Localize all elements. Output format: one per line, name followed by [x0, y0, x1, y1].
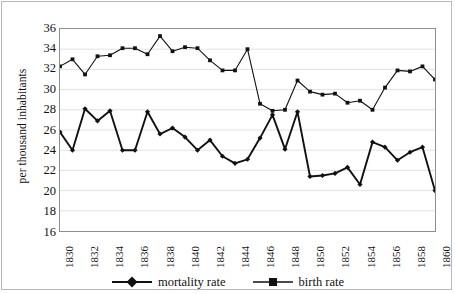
y-tick-34: 34 — [12, 42, 56, 55]
data-point — [183, 45, 187, 49]
data-point — [133, 46, 137, 50]
data-point — [433, 78, 435, 82]
data-point — [383, 86, 387, 90]
data-point — [396, 69, 400, 73]
plot-area — [59, 28, 436, 232]
y-tick-24: 24 — [12, 144, 56, 157]
x-tick-1840: 1840 — [190, 246, 201, 268]
data-point — [282, 147, 287, 152]
x-tick-1844: 1844 — [240, 246, 251, 268]
data-point — [108, 53, 112, 57]
data-point — [158, 34, 162, 38]
data-point — [221, 69, 225, 73]
y-tick-18: 18 — [12, 205, 56, 218]
x-tick-1850: 1850 — [315, 246, 326, 268]
series-birth-rate — [60, 34, 435, 113]
data-point — [258, 102, 262, 106]
data-point — [271, 109, 275, 113]
legend-item-birth-rate[interactable]: birth rate — [252, 275, 344, 290]
x-tick-1852: 1852 — [340, 246, 351, 268]
data-point — [208, 58, 212, 62]
data-point — [60, 64, 62, 68]
chart-legend: mortality ratebirth rate — [0, 272, 455, 292]
diamond-marker-icon — [111, 275, 153, 289]
data-point — [333, 92, 337, 96]
data-point — [346, 101, 350, 105]
data-point — [307, 174, 312, 179]
x-tick-1838: 1838 — [165, 246, 176, 268]
x-tick-1846: 1846 — [265, 246, 276, 268]
data-point — [96, 54, 100, 58]
x-tick-1854: 1854 — [366, 246, 377, 268]
y-tick-20: 20 — [12, 185, 56, 198]
y-tick-22: 22 — [12, 164, 56, 177]
x-tick-1834: 1834 — [114, 246, 125, 268]
x-tick-1848: 1848 — [290, 246, 301, 268]
series-mortality-rate — [60, 106, 435, 193]
data-point — [283, 108, 287, 112]
data-point — [421, 64, 425, 68]
y-tick-32: 32 — [12, 62, 56, 75]
x-tick-1836: 1836 — [139, 246, 150, 268]
legend-label: birth rate — [299, 275, 344, 290]
legend-label: mortality rate — [158, 275, 226, 290]
legend-item-mortality-rate[interactable]: mortality rate — [111, 275, 226, 290]
data-point — [246, 47, 250, 51]
data-point — [83, 73, 87, 77]
data-point — [321, 93, 325, 97]
y-tick-26: 26 — [12, 124, 56, 137]
data-point — [233, 69, 237, 73]
data-point — [371, 108, 375, 112]
square-marker-icon — [252, 275, 294, 289]
x-tick-1832: 1832 — [89, 246, 100, 268]
data-point — [121, 46, 125, 50]
x-tick-1842: 1842 — [215, 246, 226, 268]
chart-canvas — [60, 29, 435, 231]
data-point — [420, 145, 425, 150]
chart-figure: per thousand inhabitants 363432302826242… — [0, 0, 455, 294]
data-point — [296, 79, 300, 83]
x-tick-1830: 1830 — [64, 246, 75, 268]
x-tick-1858: 1858 — [416, 246, 427, 268]
series-line-1 — [60, 36, 435, 111]
data-point — [358, 99, 362, 103]
y-tick-36: 36 — [12, 22, 56, 35]
data-point — [196, 46, 200, 50]
y-tick-30: 30 — [12, 83, 56, 96]
data-point — [320, 173, 325, 178]
data-point — [171, 49, 175, 53]
y-tick-28: 28 — [12, 103, 56, 116]
data-point — [370, 140, 375, 145]
x-tick-1856: 1856 — [391, 246, 402, 268]
data-point — [408, 70, 412, 74]
data-point — [120, 148, 125, 153]
data-point — [132, 148, 137, 153]
data-point — [71, 57, 75, 61]
series-line-0 — [60, 109, 435, 191]
x-axis-tick-labels: 1830183218341836183818401842184418461848… — [0, 236, 455, 276]
x-tick-1860: 1860 — [441, 246, 452, 268]
data-point — [146, 52, 150, 56]
data-point — [308, 90, 312, 94]
